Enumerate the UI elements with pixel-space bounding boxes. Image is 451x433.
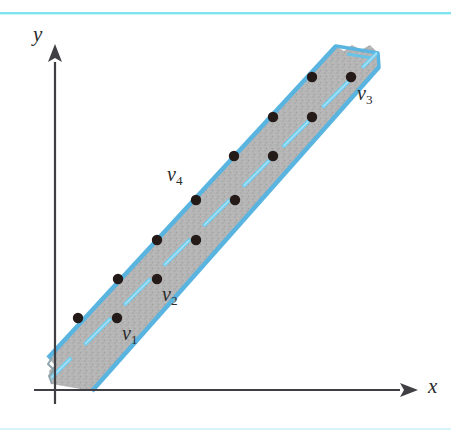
data-point [346,72,356,82]
point-label-v4-base: v [167,163,176,185]
point-label-v3-base: v [357,82,366,104]
point-label-v1: v1 [122,322,137,348]
point-label-v1-base: v [122,322,131,344]
data-point [268,151,278,161]
data-point [113,274,123,284]
band-centerline-highlight [46,52,378,383]
data-point [307,72,317,82]
y-axis-label: y [33,22,42,47]
point-label-v3: v3 [357,82,372,108]
data-point [268,112,278,122]
data-point [152,274,162,284]
point-label-v2: v2 [162,283,177,309]
data-point [307,112,317,122]
point-label-v4-subscript: 4 [176,173,183,188]
data-point [73,313,83,323]
point-label-v3-subscript: 3 [366,92,373,107]
top-rule [0,12,451,14]
data-band [46,45,379,391]
data-point [112,313,122,323]
figure-canvas: v1 v2 v3 v4 x y [0,0,451,433]
point-label-v2-subscript: 2 [171,293,178,308]
bottom-rule [0,428,451,430]
x-axis-label: x [428,374,437,399]
diagram-svg [0,0,451,433]
data-point [191,235,201,245]
point-label-v2-base: v [162,283,171,305]
point-label-v1-subscript: 1 [131,332,138,347]
data-point [191,195,201,205]
data-point [152,235,162,245]
y-axis-arrowhead [48,44,62,62]
data-point [229,151,239,161]
point-label-v4: v4 [167,163,182,189]
data-point [230,195,240,205]
x-axis-arrowhead [400,383,418,397]
